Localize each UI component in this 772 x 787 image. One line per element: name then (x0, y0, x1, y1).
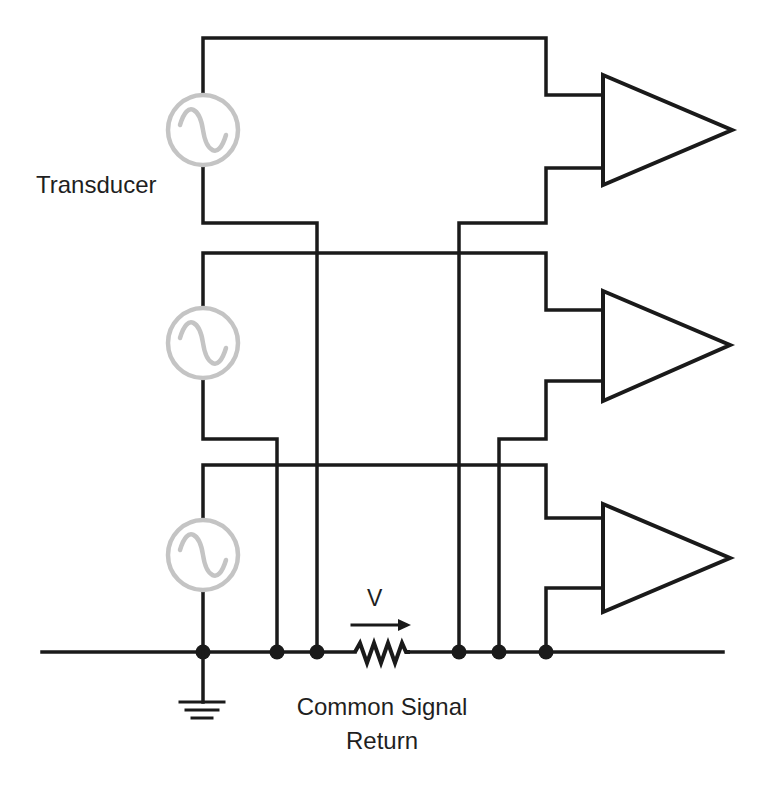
common-signal-return-label: Common Signal Return (262, 690, 502, 758)
junction-dot (270, 645, 285, 660)
common-return-line2: Return (262, 724, 502, 758)
transducer-label: Transducer (36, 171, 157, 199)
ground-icon (180, 652, 224, 718)
common-return-bus (42, 619, 723, 663)
amplifier-1-icon (603, 75, 732, 185)
junction-dot (492, 645, 507, 660)
channel-3 (168, 465, 730, 652)
wire-ch3-top (203, 465, 603, 519)
junction-dot (539, 645, 554, 660)
wire-ch2-source-return (203, 379, 277, 652)
voltage-arrow-icon (352, 619, 411, 631)
junction-dot (452, 645, 467, 660)
circuit-diagram (0, 0, 772, 787)
common-return-line1: Common Signal (262, 690, 502, 724)
ac-source-1-icon (168, 95, 238, 165)
amplifier-2-icon (603, 291, 730, 401)
ac-source-2-icon (168, 308, 238, 378)
wire-ch1-top (203, 38, 603, 95)
voltage-label: V (367, 585, 382, 612)
amplifier-3-icon (603, 504, 730, 612)
wire-ch3-amp-return (546, 588, 603, 652)
ac-source-3-icon (168, 520, 238, 590)
resistor-icon (355, 643, 410, 663)
wire-ch1-amp-return (459, 168, 603, 652)
wire-ch2-top (203, 253, 603, 310)
junction-dot (310, 645, 325, 660)
